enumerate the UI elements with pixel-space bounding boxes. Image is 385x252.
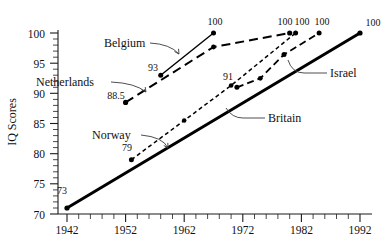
series-belgium bbox=[158, 31, 216, 78]
series-label-belgium: Belgium bbox=[104, 36, 146, 50]
series-label-netherlands: Netherlands bbox=[36, 75, 94, 89]
x-tick-label-1952: 1952 bbox=[114, 224, 137, 236]
data-point-norway-100 bbox=[293, 31, 298, 36]
data-point-norway-mid bbox=[182, 118, 187, 123]
data-label-belgium-start: 93 bbox=[148, 62, 158, 73]
y-axis-title: IQ Scores bbox=[5, 98, 19, 146]
data-label-norway-start: 79 bbox=[122, 142, 132, 153]
x-tick-label-1992: 1992 bbox=[349, 224, 372, 236]
data-label-netherlands-end: 100 bbox=[278, 16, 293, 27]
data-point-britain-100 bbox=[357, 30, 362, 35]
annotation-belgium: Belgium bbox=[104, 36, 179, 54]
data-point-israel-968 bbox=[282, 52, 287, 57]
y-tick-label-90: 90 bbox=[34, 88, 46, 100]
data-label-britain-start: 73 bbox=[57, 185, 67, 196]
data-point-belgium-100 bbox=[211, 31, 216, 36]
data-label-britain-end: 100 bbox=[366, 17, 381, 28]
data-point-britain-73 bbox=[64, 205, 69, 210]
chart-svg: 100 95 90 85 80 75 70 1942 1952 1962 197… bbox=[0, 0, 385, 252]
x-axis-major-ticks bbox=[67, 214, 360, 222]
data-point-norway-79 bbox=[129, 157, 134, 162]
y-tick-label-95: 95 bbox=[34, 58, 46, 70]
data-point-israel-91 bbox=[234, 85, 239, 90]
y-tick-label-100: 100 bbox=[28, 28, 46, 40]
series-norway bbox=[129, 31, 298, 163]
x-tick-label-1982: 1982 bbox=[290, 224, 313, 236]
x-tick-label-1942: 1942 bbox=[56, 224, 79, 236]
series-label-britain: Britain bbox=[268, 111, 301, 125]
data-point-norway-mid2 bbox=[229, 83, 234, 88]
data-label-belgium-end: 100 bbox=[208, 16, 223, 27]
x-tick-label-1972: 1972 bbox=[231, 224, 254, 236]
data-point-netherlands-100 bbox=[287, 30, 292, 35]
data-label-netherlands-start: 88.5 bbox=[107, 90, 125, 101]
data-point-belgium-93 bbox=[158, 73, 163, 78]
y-tick-label-75: 75 bbox=[34, 178, 46, 190]
data-point-israel-925 bbox=[258, 76, 263, 81]
data-point-israel-100 bbox=[317, 31, 322, 36]
series-britain bbox=[64, 30, 362, 210]
iq-scores-line-chart: 100 95 90 85 80 75 70 1942 1952 1962 197… bbox=[0, 0, 385, 252]
x-tick-label-1962: 1962 bbox=[173, 224, 196, 236]
data-label-israel-end: 100 bbox=[315, 16, 330, 27]
x-axis-minor-ticks bbox=[79, 214, 349, 219]
data-point-netherlands-mid bbox=[211, 45, 216, 50]
annotation-britain: Britain bbox=[226, 108, 301, 125]
y-tick-label-85: 85 bbox=[34, 118, 46, 130]
data-label-israel-start: 91 bbox=[223, 71, 233, 82]
annotation-netherlands: Netherlands bbox=[36, 75, 146, 92]
series-label-israel: Israel bbox=[330, 66, 357, 80]
data-label-norway-end: 100 bbox=[295, 16, 310, 27]
y-tick-label-80: 80 bbox=[34, 148, 46, 160]
series-label-norway: Norway bbox=[92, 128, 131, 142]
y-tick-label-70: 70 bbox=[34, 209, 46, 221]
